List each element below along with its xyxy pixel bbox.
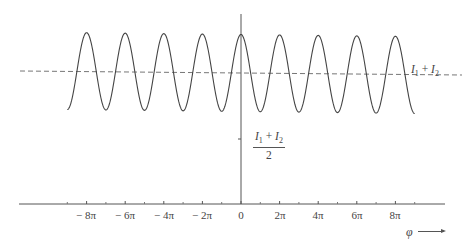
y-tick-label-half-sum: I1 + I2 2 xyxy=(253,131,285,162)
fraction-denominator: 2 xyxy=(253,148,285,162)
x-tick-label: − 8π xyxy=(76,209,96,221)
x-tick-label: − 2π xyxy=(192,209,212,221)
arrow-right-icon xyxy=(418,231,444,232)
label-plus: + xyxy=(419,63,431,75)
x-tick-label: 0 xyxy=(238,209,244,221)
fraction-numerator: I1 + I2 xyxy=(253,131,285,148)
x-tick-label: − 6π xyxy=(115,209,135,221)
plot-area xyxy=(0,0,468,243)
x-tick-label: 6π xyxy=(351,209,362,221)
x-tick-label: − 4π xyxy=(154,209,174,221)
label-sub: 2 xyxy=(435,69,439,78)
x-axis-label-phi: φ xyxy=(406,225,413,240)
x-tick-label: 4π xyxy=(312,209,323,221)
series-label-sum: I1 + I2 xyxy=(411,63,439,78)
x-tick-label: 8π xyxy=(389,209,400,221)
x-tick-label: 2π xyxy=(274,209,285,221)
label-sub: 2 xyxy=(279,136,283,145)
label-plus: + xyxy=(263,130,275,142)
